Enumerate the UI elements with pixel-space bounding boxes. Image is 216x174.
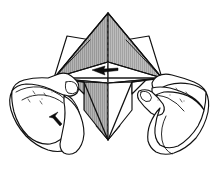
origami-illustration [0,0,216,174]
origami-figure: Origami folding step illustration Two ha… [0,0,216,174]
